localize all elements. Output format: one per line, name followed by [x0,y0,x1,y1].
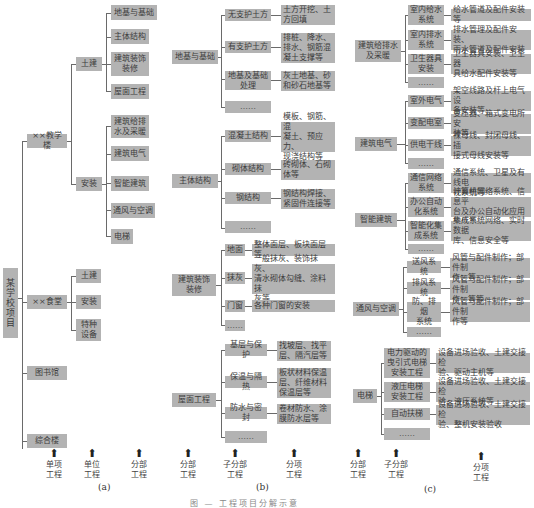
subdivision-node: 液压电梯 安装工程 [384,382,430,402]
subdivision-node-ellipsis: …… [384,428,430,440]
section-node: 智能建筑 [111,176,149,191]
connector [405,15,406,82]
unit-node-complex-building: 综合楼 [27,434,67,448]
division-node-civil: 土建 [76,57,102,71]
connector [71,64,72,184]
division-node: 主体结构 [172,174,218,188]
division-node: 安装 [76,295,101,309]
connector [405,101,406,163]
division-node: 建筑电气 [355,137,397,151]
connector [444,40,451,41]
connector [271,80,281,81]
subdivision-node: 钢结构 [225,192,271,204]
connector [271,136,281,137]
division-node: 地基与基础 [172,50,218,64]
subdivision-node: 排风系统 [407,282,441,294]
connector [221,250,222,325]
connector [441,312,450,313]
arrow-up-icon: ⬆ [473,451,489,462]
connector [245,306,252,307]
connector [221,136,222,228]
division-node: 屋面工程 [172,393,216,407]
item-node: 一般抹灰、装饰抹灰、 清水砌体勾缝、涂料抹 灰等 [252,264,335,294]
connector [267,382,277,383]
connector [444,101,451,102]
connector [245,250,252,251]
axis-label: 分部 工程 [173,460,203,480]
item-node: 各种门窗的安装 [252,300,335,312]
arrow-up-icon: ⬆ [388,448,404,459]
subdivision-node-ellipsis: …… [225,221,271,233]
subdivision-node-ellipsis: …… [408,158,444,169]
item-node: 排水管理及配件安装、 雨水管道及配件安装 [451,30,531,50]
section-node: 建筑电气 [111,146,149,161]
subdivision-node: 防、排烟 系统 [407,302,441,322]
subdivision-node: 智能化集 成系统 [408,221,444,241]
division-node-installation: 安装 [76,177,102,191]
section-node: 建筑装饰 装修 [111,52,149,76]
axis-label: 分部 工程 [124,460,154,480]
connector [271,169,281,170]
connector [267,413,277,414]
subdivision-node: 门窗 [225,300,245,312]
unit-node-teaching-building: ××教学楼 [27,134,67,148]
unit-node-library: 图书馆 [27,366,67,380]
figure-caption: 图 — 工程项目分解示意 [190,497,299,508]
item-node: 土方开挖、土 方回填 [281,5,335,25]
subdivision-node-ellipsis: …… [225,431,267,443]
arrow-up-icon: ⬆ [350,448,366,459]
axis-label: 分项 工程 [279,460,309,480]
item-node: 钢结构焊接、 紧固件连接等 [281,189,335,209]
item-node: 设备进场验收、土建交接检 验、整机安装验收 [436,405,530,425]
item-node: 板状材料保温 层、纤维材料 保温层等 [277,368,331,398]
connector [444,145,451,146]
unit-node-canteen: ××食堂 [27,295,67,309]
section-node: 电梯 [111,229,133,244]
subdivision-node: 有支护土方 [225,41,271,53]
item-node: 设备进场验收、土建交接检 验、液压系统等 [436,382,530,402]
connector [22,141,23,449]
division-node: 电梯 [353,389,377,403]
panel-label: (c) [424,484,436,494]
connector [403,267,404,332]
subdivision-node: 通信网络 系统 [408,173,444,193]
connector [245,278,252,279]
connector [444,231,451,232]
subdivision-node: 保温与隔热 [225,376,267,388]
arrow-up-icon: ⬆ [180,448,196,459]
connector [271,47,281,48]
division-node: 土建 [76,269,101,283]
axis-label: 单位 工程 [77,460,107,480]
subdivision-node: 地基及基础 处理 [225,71,271,90]
division-node: 通风与空调 [353,302,399,316]
section-node: 主体结构 [111,29,149,44]
subdivision-node: 室内排水 系统 [408,30,444,50]
arrow-up-icon: ⬆ [227,448,243,459]
subdivision-node: 自动扶梯 [384,408,430,420]
subdivision-node: 抹灰 [225,272,245,284]
item-node: 裸母线、封闭母线、插 接式母线安装等 [451,136,531,156]
subdivision-node: 混凝土结构 [225,130,271,142]
axis-label: 单项 工程 [39,460,69,480]
division-node: 智能建筑 [355,213,397,227]
item-node: 卷材防水、涂 膜防水层等 [277,404,331,424]
item-node: 计算机网络系统、信息平 台及办公自动化应用软件等 [451,197,531,217]
subdivision-node: 防水与密封 [225,407,267,419]
panel-label: (a) [98,482,110,492]
item-node: 集成系统网络、实时数据 库、信息安全等 [451,221,531,241]
connector [221,350,222,437]
item-node: 卫生器具安装、卫生器 具给水配件安装等 [451,54,531,74]
subdivision-node: 办公自动 化系统 [408,197,444,217]
item-node: 砖砌体、石砌 体等 [281,160,335,180]
arrow-up-icon: ⬆ [46,448,62,459]
item-node: 模板、钢筋、混 凝土、预应力、 现浇结构等 [281,122,335,152]
item-node: 排桩、降水、 排水、钢筋混 凝土支撑等 [281,33,335,63]
subdivision-node: 室内给水 系统 [408,5,444,25]
connector [71,276,72,330]
connector [444,183,451,184]
axis-label: 子分部 工程 [381,460,411,480]
axis-label: 子分部 工程 [220,460,250,480]
panel-label: (b) [256,482,269,492]
arrow-up-icon: ⬆ [286,448,302,459]
item-node: 风管与配件制作；部件制 作等 [450,302,530,322]
